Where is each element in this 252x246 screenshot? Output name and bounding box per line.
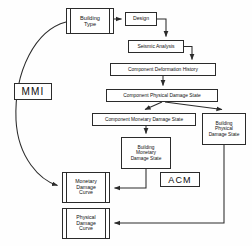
node-design-label: Design — [132, 16, 150, 22]
node-monetary-damage-curve-label: Monetary Damage Curve — [74, 179, 98, 196]
mmi-tag[interactable]: MMI — [14, 83, 52, 100]
wire-design-to-seismic-analysis — [157, 19, 166, 37]
node-component-physical-damage-state-label: Component Physical Damage State — [122, 93, 201, 98]
node-component-monetary-damage-state[interactable]: Component Monetary Damage State — [92, 113, 196, 126]
node-physical-damage-curve-label: Physical Damage Curve — [75, 215, 97, 232]
node-seismic-analysis[interactable]: Seismic Analysis — [128, 40, 184, 53]
node-building-monetary-damage-state-label: Building Monetary Damage State — [130, 145, 163, 161]
node-component-physical-damage-state[interactable]: Component Physical Damage State — [106, 89, 218, 102]
node-building-physical-damage-state[interactable]: Building Physical Damage State — [202, 113, 246, 145]
node-physical-damage-curve[interactable]: Physical Damage Curve — [62, 208, 110, 239]
wire-building-monetary-damage-state-to-monetary-damage-curve — [115, 169, 147, 188]
flowchart-diagram: Building Type Design Seismic Analysis Co… — [0, 0, 252, 246]
node-monetary-damage-curve[interactable]: Monetary Damage Curve — [62, 172, 110, 203]
node-component-deformation-history-label: Component Deformation History — [127, 67, 199, 72]
node-design[interactable]: Design — [125, 12, 157, 26]
acm-tag-label: ACM — [168, 175, 192, 185]
node-component-deformation-history[interactable]: Component Deformation History — [110, 63, 216, 76]
node-seismic-analysis-label: Seismic Analysis — [136, 44, 175, 50]
wire-component-physical-damage-state-to-building-physical-damage-state — [165, 102, 222, 110]
node-building-monetary-damage-state[interactable]: Building Monetary Damage State — [121, 137, 171, 169]
wire-component-physical-damage-state-to-component-monetary-damage-state — [145, 102, 162, 110]
wire-seismic-analysis-to-component-deformation-history — [184, 47, 192, 60]
node-component-monetary-damage-state-label: Component Monetary Damage State — [104, 117, 184, 122]
acm-tag[interactable]: ACM — [160, 172, 200, 187]
node-building-type-label: Building Type — [79, 15, 101, 28]
node-building-type[interactable]: Building Type — [66, 8, 114, 34]
node-building-physical-damage-state-label: Building Physical Damage State — [208, 121, 241, 137]
wire-mmi-arc — [16, 22, 66, 186]
mmi-tag-label: MMI — [21, 86, 44, 97]
